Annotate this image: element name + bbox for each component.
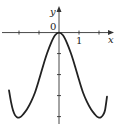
x-tick-label: 1 bbox=[76, 35, 82, 46]
chart: 1 x y 0 bbox=[0, 0, 116, 125]
origin-label: 0 bbox=[50, 21, 56, 32]
x-axis-label: x bbox=[108, 34, 114, 45]
series-line-curve bbox=[9, 33, 107, 118]
y-axis-arrow-icon bbox=[57, 6, 62, 12]
axes bbox=[2, 6, 114, 124]
y-axis-label: y bbox=[49, 6, 56, 17]
